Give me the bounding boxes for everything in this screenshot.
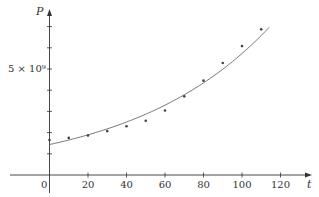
data-point: [144, 119, 147, 122]
data-point: [221, 62, 224, 65]
chart: 20406080100120 P t 0 5 × 10⁹: [0, 0, 319, 197]
origin-label: 0: [41, 179, 47, 190]
exponential-fit-curve: [50, 28, 269, 145]
y-axis-label: P: [35, 5, 44, 18]
x-axis-label: t: [307, 178, 312, 191]
data-point: [67, 137, 70, 140]
x-tick-label: 20: [82, 179, 95, 190]
tick-labels: 20406080100120: [82, 179, 290, 190]
axes: [10, 9, 312, 193]
x-tick-label: 100: [232, 179, 251, 190]
data-point: [87, 134, 90, 137]
data-point: [241, 45, 244, 48]
data-point: [260, 28, 263, 31]
y-tick-label-5e9: 5 × 10⁹: [8, 63, 46, 74]
data-point: [183, 95, 186, 98]
y-axis-arrow-icon: [47, 9, 52, 16]
data-point: [125, 125, 128, 128]
data-point: [106, 130, 109, 133]
data-points: [48, 28, 262, 141]
x-axis-arrow-icon: [305, 173, 312, 178]
axis-ticks: [47, 27, 281, 178]
data-point: [48, 139, 51, 142]
x-tick-label: 80: [197, 179, 210, 190]
x-tick-label: 40: [120, 179, 133, 190]
x-tick-label: 120: [271, 179, 290, 190]
data-point: [202, 79, 205, 82]
data-point: [164, 109, 167, 112]
x-tick-label: 60: [159, 179, 172, 190]
